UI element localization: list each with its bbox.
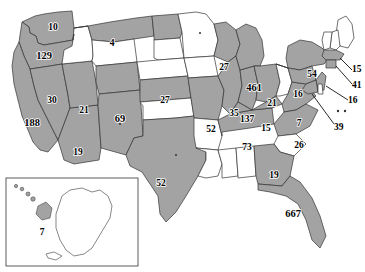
label-california: 188 xyxy=(24,117,40,128)
label-new-york: 54 xyxy=(307,69,317,79)
label-missouri: 52 xyxy=(206,124,216,134)
label-montana: 4 xyxy=(110,38,115,48)
rhode-island-dot xyxy=(344,110,346,112)
label-ohio: 21 xyxy=(267,98,277,108)
label-oregon: 129 xyxy=(36,50,52,61)
state-minnesota xyxy=(178,12,218,58)
hawaii-island-dot-3 xyxy=(26,192,30,196)
state-missouri xyxy=(188,76,224,120)
state-north-dakota xyxy=(152,14,182,40)
state-iowa xyxy=(184,56,218,78)
label-kansas: 27 xyxy=(160,95,170,105)
label-nevada: 30 xyxy=(47,95,57,105)
label-washington: 10 xyxy=(48,22,58,32)
state-colorado xyxy=(96,62,140,94)
label-georgia: 19 xyxy=(269,170,279,180)
label-tennessee: 73 xyxy=(242,142,252,152)
map-svg: 10 129 188 30 19 21 69 4 52 27 52 35 137… xyxy=(0,0,365,272)
label-wisconsin: 27 xyxy=(219,62,229,72)
state-delaware xyxy=(318,84,323,94)
state-connecticut xyxy=(326,60,336,68)
hawaii-island-dot-4 xyxy=(31,197,35,201)
label-connecticut: 41 xyxy=(352,80,362,90)
label-florida: 667 xyxy=(285,208,301,219)
oklahoma-center-dot xyxy=(175,154,177,156)
label-arizona: 19 xyxy=(73,147,83,157)
label-hawaii: 7 xyxy=(40,227,45,237)
label-colorado: 69 xyxy=(115,113,126,124)
leader-line-new-jersey xyxy=(326,86,348,100)
state-wyoming xyxy=(92,39,137,66)
leader-line-connecticut xyxy=(336,66,352,84)
label-virginia: 7 xyxy=(297,118,302,128)
us-choropleth-map: 10 129 188 30 19 21 69 4 52 27 52 35 137… xyxy=(0,0,365,272)
label-texas: 52 xyxy=(156,178,166,188)
label-illinois: 35 xyxy=(229,108,239,118)
hawaii-island-dot-2 xyxy=(20,187,24,191)
leader-line-massachusetts xyxy=(340,58,352,70)
label-michigan: 461 xyxy=(246,82,262,93)
label-new-jersey: 16 xyxy=(348,95,358,105)
delaware-dot xyxy=(337,110,339,112)
label-north-carolina: 26 xyxy=(294,140,304,150)
label-indiana: 137 xyxy=(240,114,255,124)
state-michigan xyxy=(236,24,264,70)
label-pennsylvania: 16 xyxy=(293,89,303,99)
label-utah: 21 xyxy=(79,105,89,115)
label-massachusetts: 15 xyxy=(352,64,362,74)
label-kentucky: 15 xyxy=(261,123,271,133)
minnesota-center-dot xyxy=(199,32,201,34)
state-south-dakota xyxy=(154,38,184,60)
hawaii-island-dot-1 xyxy=(14,184,17,187)
label-maryland: 39 xyxy=(334,122,344,132)
